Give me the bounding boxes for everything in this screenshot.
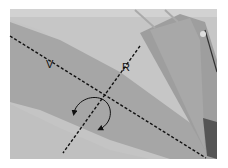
annotated-photo: V R: [0, 0, 228, 168]
v-axis-label: V: [46, 58, 54, 70]
r-axis-label: R: [122, 61, 130, 73]
